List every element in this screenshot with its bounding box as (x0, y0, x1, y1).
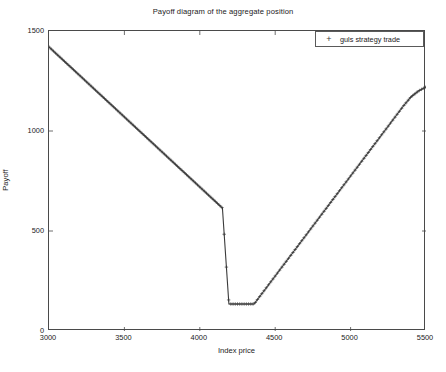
legend-entry-label: guls strategy trade (340, 35, 400, 44)
x-tick-label-4000: 4000 (191, 333, 207, 342)
legend-box[interactable]: + guls strategy trade (315, 31, 424, 47)
y-tick-label-1000: 1000 (0, 126, 44, 135)
plus-marker-icon: + (316, 35, 340, 44)
figure-canvas: Payoff diagram of the aggregate position… (0, 0, 446, 372)
x-tick-label-3000: 3000 (40, 333, 56, 342)
chart-title: Payoff diagram of the aggregate position (0, 7, 446, 16)
payoff-curve-svg (49, 31, 426, 331)
series-markers-guls-strategy-trade (49, 45, 426, 305)
y-tick-label-500: 500 (0, 226, 44, 235)
y-axis-label: Payoff (1, 169, 10, 190)
plot-area (48, 30, 425, 330)
x-axis-label: Index price (48, 346, 425, 355)
axis-tick-marks (49, 31, 426, 331)
x-tick-label-4500: 4500 (266, 333, 282, 342)
y-tick-label-1500: 1500 (0, 26, 44, 35)
y-tick-label-0: 0 (0, 326, 44, 335)
series-line-guls-strategy-trade (49, 47, 426, 304)
x-tick-label-5000: 5000 (341, 333, 357, 342)
x-tick-label-3500: 3500 (115, 333, 131, 342)
x-tick-label-5500: 5500 (417, 333, 433, 342)
